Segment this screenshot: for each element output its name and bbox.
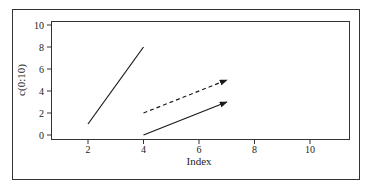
series-layer — [88, 47, 227, 135]
y-axis: 0246810 — [34, 20, 52, 141]
x-tick-label: 4 — [141, 144, 146, 155]
x-axis: 246810 — [86, 140, 316, 156]
x-axis-title: Index — [186, 155, 212, 167]
y-tick-label: 0 — [39, 130, 44, 141]
y-tick-label: 10 — [34, 20, 44, 31]
dashed-arrow — [144, 80, 227, 113]
x-tick-label: 6 — [197, 144, 202, 155]
chart: 0246810 246810 Index c(0:10) — [0, 0, 367, 189]
solid-arrow — [144, 102, 227, 135]
y-tick-label: 6 — [39, 64, 44, 75]
y-tick-label: 4 — [39, 86, 44, 97]
x-tick-label: 2 — [86, 144, 91, 155]
segment — [88, 47, 144, 124]
y-axis-title: c(0:10) — [15, 64, 28, 96]
y-tick-label: 2 — [39, 108, 44, 119]
x-tick-label: 8 — [252, 144, 257, 155]
plot-area — [52, 22, 350, 140]
x-tick-label: 10 — [305, 144, 315, 155]
y-tick-label: 8 — [39, 42, 44, 53]
